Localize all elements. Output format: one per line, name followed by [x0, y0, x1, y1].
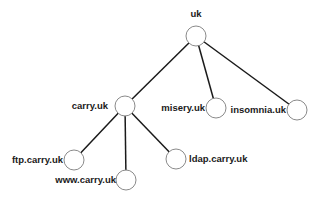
- label-www: www.carry.uk: [54, 174, 116, 185]
- node-insomnia: [287, 100, 307, 120]
- label-carry: carry.uk: [72, 100, 109, 111]
- labels: ukcarry.ukmisery.ukinsomnia.ukftp.carry.…: [12, 8, 287, 185]
- edge-uk-carry: [125, 36, 196, 106]
- node-uk: [186, 26, 206, 46]
- node-ftp: [64, 150, 84, 170]
- node-www: [116, 170, 136, 190]
- label-insomnia: insomnia.uk: [231, 104, 287, 115]
- dns-tree-diagram: ukcarry.ukmisery.ukinsomnia.ukftp.carry.…: [0, 0, 322, 202]
- label-uk: uk: [190, 8, 202, 19]
- node-misery: [206, 98, 226, 118]
- edge-carry-ftp: [74, 106, 125, 160]
- label-ftp: ftp.carry.uk: [12, 154, 64, 165]
- label-misery: misery.uk: [161, 102, 205, 113]
- node-ldap: [166, 149, 186, 169]
- edge-carry-www: [125, 106, 126, 180]
- edge-uk-misery: [196, 36, 216, 108]
- node-carry: [115, 96, 135, 116]
- edge-carry-ldap: [125, 106, 176, 159]
- label-ldap: ldap.carry.uk: [189, 153, 248, 164]
